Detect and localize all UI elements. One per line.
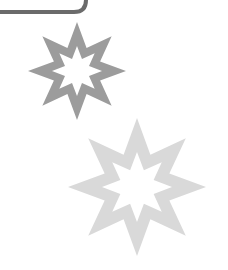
star-light-icon [68,118,206,256]
rounded-frame-corner [0,0,86,12]
star-dark-icon [28,22,126,120]
drawing-canvas [0,0,228,270]
